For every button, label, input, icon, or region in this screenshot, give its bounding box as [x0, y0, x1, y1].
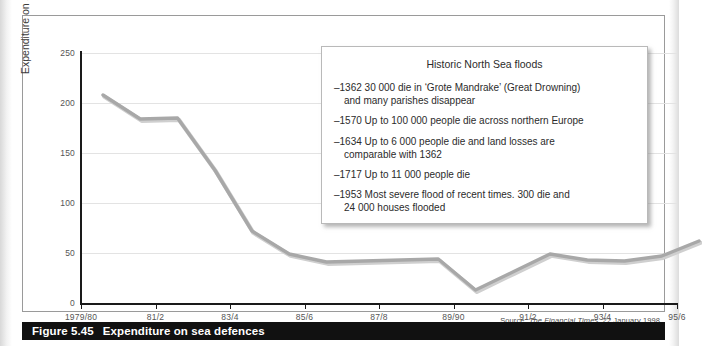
page-edge-right-shading [669, 0, 679, 346]
x-axis-tick [603, 303, 604, 309]
page-edge-left-shading [0, 0, 12, 346]
y-axis-line [80, 51, 82, 305]
x-axis-tick [677, 303, 678, 309]
x-axis-tick [305, 303, 306, 309]
x-axis-tick [156, 303, 157, 309]
callout-item: –1362 30 000 die in ‘Grote Mandrake’ (Gr… [334, 81, 637, 107]
y-axis-tick-label: 150 [41, 148, 75, 158]
y-axis-title: Expenditure on sea defences (£m) [19, 0, 31, 74]
y-axis-tick-label: 250 [41, 48, 75, 58]
x-axis-tick [81, 303, 82, 309]
callout-item-list: –1362 30 000 die in ‘Grote Mandrake’ (Gr… [332, 81, 637, 215]
callout-item: –1717 Up to 11 000 people die [334, 168, 637, 181]
callout-item: –1570 Up to 100 000 people die across no… [334, 114, 637, 127]
chart-panel: Expenditure on sea defences (£m) 0501001… [22, 15, 665, 312]
x-axis-tick [454, 303, 455, 309]
y-axis-tick-label: 0 [41, 298, 75, 308]
y-axis-tick-label: 100 [41, 198, 75, 208]
figure-number: Figure 5.45 [32, 325, 94, 337]
x-axis-tick [528, 303, 529, 309]
x-axis-tick [230, 303, 231, 309]
x-axis-tick [379, 303, 380, 309]
y-axis-tick-label: 50 [41, 248, 75, 258]
callout-item: –1634 Up to 6 000 people die and land lo… [334, 135, 637, 161]
gridline [81, 253, 677, 254]
callout-title: Historic North Sea floods [332, 58, 637, 70]
figure-caption-bar: Figure 5.45 Expenditure on sea defences [22, 322, 665, 340]
y-axis-tick-label: 200 [41, 98, 75, 108]
x-axis-tick-label: 95/6 [668, 312, 685, 322]
figure-caption-title: Expenditure on sea defences [103, 325, 265, 337]
historic-floods-callout: Historic North Sea floods –1362 30 000 d… [321, 46, 648, 224]
callout-item: –1953 Most severe flood of recent times.… [334, 188, 637, 214]
